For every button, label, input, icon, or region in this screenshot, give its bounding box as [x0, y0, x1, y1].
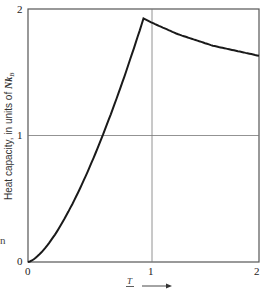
- svg-text:T: T: [127, 276, 133, 286]
- y-tick-0: 0: [17, 255, 23, 267]
- x-tick-2: 2: [254, 265, 260, 277]
- y-axis-label: Heat capacity, in units of NkB: [3, 72, 16, 200]
- svg-text:Heat capacity, in units of NkB: Heat capacity, in units of NkB: [3, 72, 16, 200]
- heat-capacity-curve: [28, 19, 259, 263]
- heat-capacity-chart: 2 1 0 0 1 2 Heat capacity, in units of N…: [0, 0, 264, 291]
- y-tick-2: 2: [17, 3, 23, 15]
- right-arrow-icon: [142, 284, 172, 289]
- stray-text-fragment: n: [0, 234, 6, 246]
- y-tick-1: 1: [17, 129, 23, 141]
- x-axis-label: T: [126, 276, 172, 289]
- x-tick-0: 0: [25, 265, 31, 277]
- x-tick-1: 1: [148, 265, 154, 277]
